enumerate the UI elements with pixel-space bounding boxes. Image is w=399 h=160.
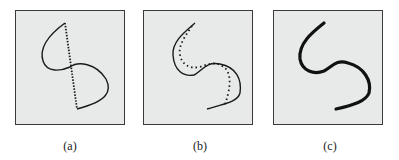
panel-b-label: (b) bbox=[170, 139, 230, 154]
solid-loop-curve bbox=[42, 23, 108, 109]
panel-a bbox=[15, 10, 125, 125]
thick-s-curve bbox=[300, 23, 370, 109]
panel-c bbox=[273, 10, 383, 125]
curve-diagram-c bbox=[274, 11, 384, 126]
curve-diagram-a bbox=[16, 11, 126, 126]
panel-c-label: (c) bbox=[300, 139, 360, 154]
solid-s-curve bbox=[173, 23, 240, 109]
dotted-chord-line bbox=[65, 23, 77, 109]
panel-b bbox=[143, 10, 253, 125]
curve-diagram-b bbox=[144, 11, 254, 126]
panel-a-label: (a) bbox=[40, 139, 100, 154]
